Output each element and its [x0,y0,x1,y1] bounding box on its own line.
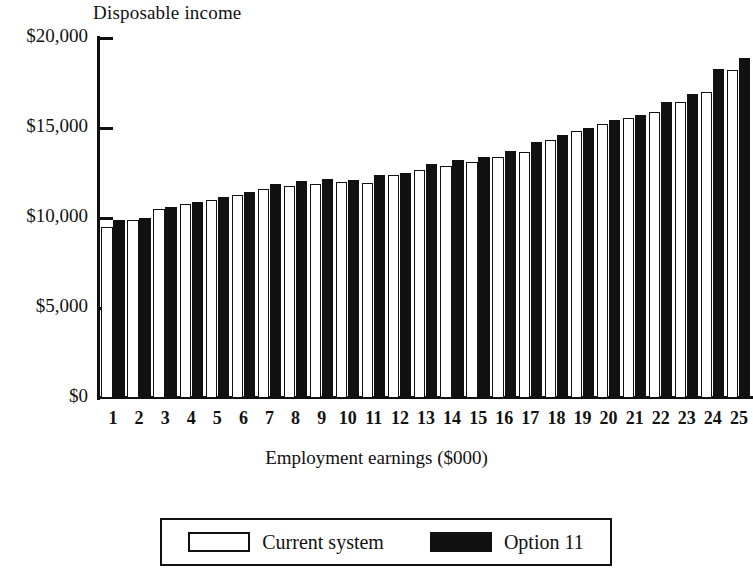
x-axis-tick-label: 25 [726,408,752,429]
legend-label: Current system [262,531,384,554]
y-axis-tick-label: $0 [0,385,88,407]
bar-chart-figure: Disposable income $0$5,000$10,000$15,000… [0,0,753,571]
bar-option-11 [270,184,281,398]
legend-item: Current system [188,531,384,554]
bar-current-system [727,70,738,399]
y-axis-tick-label: $5,000 [0,295,88,317]
x-axis-tick-label: 21 [622,408,648,429]
bar-option-11 [165,207,176,398]
bar-option-11 [139,218,150,398]
bar-group [465,38,491,398]
bar-current-system [310,184,321,398]
bar-option-11 [218,197,229,398]
y-axis-tick-label: $15,000 [0,115,88,137]
bar-current-system [127,220,138,398]
bar-group [100,38,126,398]
bar-option-11 [713,69,724,398]
x-axis-tick-labels: 1234567891011121314151617181920212223242… [100,408,752,434]
bars-area [100,38,752,398]
bar-option-11 [452,160,463,399]
bar-group [309,38,335,398]
bar-group [204,38,230,398]
bar-option-11 [296,181,307,398]
bar-option-11 [531,142,542,399]
x-axis-tick-label: 4 [178,408,204,429]
bar-group [283,38,309,398]
x-axis-tick-label: 9 [309,408,335,429]
bar-option-11 [348,180,359,398]
bar-current-system [545,140,556,398]
bar-option-11 [609,120,620,398]
y-axis-tick-label: $20,000 [0,25,88,47]
bar-group [596,38,622,398]
bar-group [569,38,595,398]
bar-group [335,38,361,398]
x-axis-tick-label: 3 [152,408,178,429]
x-axis-tick-label: 18 [543,408,569,429]
x-axis-tick-label: 6 [230,408,256,429]
bar-option-11 [687,94,698,398]
bar-option-11 [505,151,516,399]
bar-current-system [414,170,425,398]
x-axis-tick-label: 23 [674,408,700,429]
y-axis-tick-label: $10,000 [0,205,88,227]
x-axis-tick-label: 16 [491,408,517,429]
bar-group [152,38,178,398]
bar-group [387,38,413,398]
bar-group [726,38,752,398]
bar-current-system [284,186,295,398]
bar-option-11 [322,179,333,398]
bar-current-system [258,189,269,398]
bar-current-system [701,92,712,398]
x-axis-tick-label: 5 [204,408,230,429]
x-axis-tick-label: 20 [596,408,622,429]
bar-current-system [440,166,451,398]
legend-item: Option 11 [430,531,584,554]
black-filled-swatch [430,532,492,552]
bar-option-11 [113,220,124,398]
bar-option-11 [400,173,411,398]
x-axis-tick-label: 24 [700,408,726,429]
bar-current-system [232,195,243,398]
bar-group [126,38,152,398]
x-axis-tick-label: 2 [126,408,152,429]
bar-current-system [571,131,582,398]
bar-current-system [206,200,217,398]
x-axis-tick-label: 17 [517,408,543,429]
bar-group [230,38,256,398]
bar-option-11 [739,58,750,398]
bar-group [674,38,700,398]
bar-current-system [466,162,477,398]
bar-current-system [388,175,399,398]
bar-option-11 [478,157,489,398]
bar-option-11 [583,128,594,398]
bar-option-11 [426,164,437,398]
x-axis-tick-label: 14 [439,408,465,429]
bar-current-system [180,204,191,398]
bar-option-11 [635,115,646,399]
bar-option-11 [244,192,255,398]
bar-current-system [362,183,373,398]
bar-group [517,38,543,398]
bar-current-system [649,112,660,398]
y-axis-title: Disposable income [93,2,242,24]
x-axis-tick-label: 12 [387,408,413,429]
x-axis-tick-label: 13 [413,408,439,429]
bar-group [439,38,465,398]
bar-group [543,38,569,398]
bar-current-system [675,102,686,398]
x-axis-tick-label: 8 [283,408,309,429]
legend-label: Option 11 [504,531,584,554]
x-axis-tick-label: 7 [256,408,282,429]
bar-current-system [336,182,347,398]
x-axis-tick-label: 19 [569,408,595,429]
x-axis-tick-label: 10 [335,408,361,429]
bar-current-system [597,124,608,399]
bar-option-11 [192,202,203,398]
bar-group [178,38,204,398]
bar-group [700,38,726,398]
bar-current-system [153,209,164,398]
bar-group [413,38,439,398]
x-axis-tick-label: 11 [361,408,387,429]
bar-current-system [101,227,112,398]
